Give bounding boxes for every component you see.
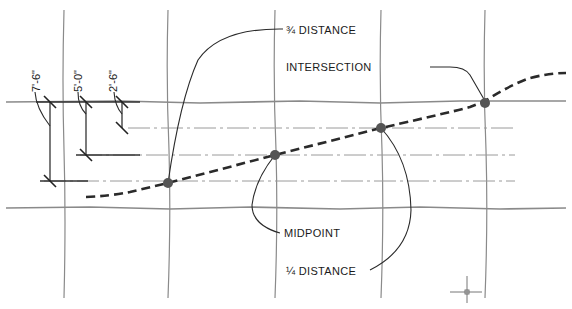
midpoint[interactable] — [270, 150, 280, 160]
grid-line-v5 — [484, 10, 487, 298]
cad-drawing-canvas[interactable]: 7'-6" 5'-0" 2'-6" ¾ DISTANCE INTERSECTIO… — [0, 0, 572, 309]
dimension-7-6: 7'-6" — [30, 70, 42, 92]
leader-three-quarter — [168, 29, 283, 183]
dim-leader — [78, 92, 86, 114]
crosshair-cursor-icon — [450, 276, 482, 303]
three-quarter-distance-point[interactable] — [163, 178, 173, 188]
label-intersection: INTERSECTION — [286, 61, 372, 73]
dimension-lines — [35, 92, 140, 187]
leader-quarter — [370, 128, 411, 270]
grid-line-v2 — [167, 10, 170, 298]
grid-line-v1 — [63, 10, 65, 298]
dimension-2-6: 2'-6" — [107, 70, 119, 92]
dimension-5-0: 5'-0" — [72, 70, 84, 92]
dim-leader — [114, 92, 122, 114]
label-midpoint: MIDPOINT — [284, 227, 340, 239]
grid-line-v4 — [380, 10, 383, 298]
dim-leader — [35, 92, 50, 126]
label-quarter-distance: ¼ DISTANCE — [286, 265, 356, 277]
leader-midpoint — [252, 155, 280, 233]
grid-line-h-bottom — [6, 207, 566, 209]
dashed-curve[interactable] — [86, 73, 566, 197]
quarter-distance-point[interactable] — [376, 123, 386, 133]
intersection-point[interactable] — [480, 98, 490, 108]
leader-intersection — [430, 67, 485, 101]
label-three-quarter-distance: ¾ DISTANCE — [286, 24, 356, 36]
